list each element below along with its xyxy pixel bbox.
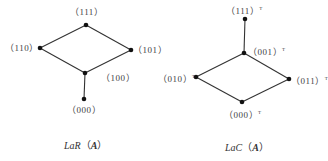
node-100 <box>83 71 88 76</box>
node-000 <box>82 97 87 102</box>
edge-011-000 <box>242 79 289 102</box>
label-000: （000） <box>67 105 101 115</box>
node-111T <box>243 17 248 22</box>
label-100: （100） <box>101 73 135 83</box>
caption-lac: LaC（A） <box>225 139 269 154</box>
lar-nodes <box>38 23 134 102</box>
lac-nodes <box>194 17 292 105</box>
edge-111-110 <box>40 25 86 48</box>
label-111T: （111）T <box>226 4 263 16</box>
caption-lar: LaR（A） <box>64 137 107 152</box>
edge-100-000 <box>84 73 85 99</box>
label-010T: （010）T <box>158 72 196 84</box>
label-111: （111） <box>70 7 103 17</box>
label-000T: （000）T <box>224 108 262 120</box>
edge-110-100 <box>40 48 85 73</box>
edge-001-010 <box>196 53 244 77</box>
edge-111-001 <box>244 19 245 53</box>
edge-010-000 <box>196 77 242 102</box>
node-111 <box>84 23 89 28</box>
label-110: （110） <box>5 43 39 53</box>
label-001T: （001）T <box>248 45 286 57</box>
edge-111-101 <box>86 25 131 50</box>
label-101: （101） <box>133 45 167 55</box>
node-000T <box>240 100 245 105</box>
node-001T <box>242 51 247 56</box>
lac-edges <box>196 19 289 102</box>
lar-edges <box>40 25 131 99</box>
edge-101-100 <box>85 50 131 73</box>
label-011T: （011）T <box>291 74 328 86</box>
